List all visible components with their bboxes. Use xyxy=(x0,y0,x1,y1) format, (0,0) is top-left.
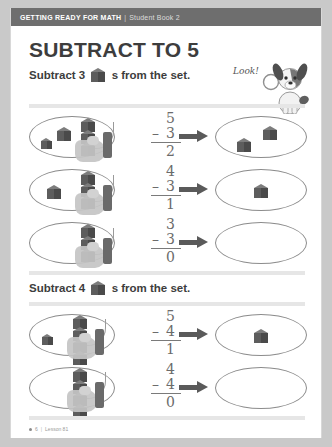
instruction-suffix: s from the set. xyxy=(112,282,191,294)
hand-removing-cubes-icon xyxy=(73,116,119,166)
cube-icon xyxy=(254,329,268,343)
answer-value: 0 xyxy=(137,395,181,410)
subtraction-equation: 5 – 4 1 xyxy=(137,309,181,357)
arrow-icon xyxy=(179,130,209,142)
header-subtitle: Student Book 2 xyxy=(129,14,180,21)
subtrahend: 3 xyxy=(166,179,175,194)
page-footer: 6 | Lesson 81 xyxy=(29,426,68,432)
hand-removing-cubes-icon xyxy=(65,313,111,363)
page-title: SUBTRACT TO 5 xyxy=(29,38,199,62)
cube-icon xyxy=(237,138,251,152)
cube-icon xyxy=(91,281,105,295)
hand-removing-cubes-icon xyxy=(73,169,119,219)
worksheet-page: GETTING READY FOR MATH | Student Book 2 … xyxy=(10,8,322,438)
footer-lesson-label: Lesson 81 xyxy=(45,426,68,432)
subtraction-equation: 4 – 4 0 xyxy=(137,362,181,410)
minuend: 3 xyxy=(137,217,181,232)
cube-icon xyxy=(254,184,268,198)
subtrahend: 4 xyxy=(166,324,175,339)
cube-icon xyxy=(263,126,277,140)
answer-value: 0 xyxy=(137,250,181,265)
subtrahend: 4 xyxy=(166,377,175,392)
answer-value: 2 xyxy=(137,144,181,159)
arrow-icon xyxy=(179,381,209,393)
subtraction-equation: 3 – 3 0 xyxy=(137,217,181,265)
section-divider xyxy=(29,416,305,420)
page-header: GETTING READY FOR MATH | Student Book 2 xyxy=(11,8,322,26)
look-label: Look! xyxy=(233,66,259,76)
minus-operator: – xyxy=(152,232,159,247)
minus-operator: – xyxy=(152,324,159,339)
section-divider xyxy=(29,302,305,306)
problem-row: 3 – 3 0 xyxy=(29,216,309,268)
minuend: 4 xyxy=(137,362,181,377)
problem-row: 4 – 4 0 xyxy=(29,361,309,413)
cube-icon xyxy=(42,334,53,345)
answer-oval-right xyxy=(215,222,307,264)
instruction-prefix: Subtract xyxy=(29,282,76,294)
subtrahend: 3 xyxy=(166,232,175,247)
problem-row: 5 – 4 1 xyxy=(29,308,309,360)
section-divider xyxy=(29,271,305,275)
problem-row: 4 – 3 1 xyxy=(29,163,309,215)
arrow-icon xyxy=(179,236,209,248)
answer-value: 1 xyxy=(137,197,181,212)
subtraction-equation: 4 – 3 1 xyxy=(137,164,181,212)
cube-icon xyxy=(47,185,61,199)
footer-page-number: 6 xyxy=(35,426,38,432)
instruction-prefix: Subtract xyxy=(29,69,76,81)
header-separator: | xyxy=(124,14,126,21)
minuend: 5 xyxy=(137,309,181,324)
cube-icon xyxy=(57,127,71,141)
cube-icon xyxy=(41,138,52,149)
section-divider xyxy=(29,104,305,108)
problem-row: 5 – 3 2 xyxy=(29,110,309,162)
instruction-number: 3 xyxy=(79,69,85,81)
cube-icon xyxy=(91,68,105,82)
minus-operator: – xyxy=(152,179,159,194)
page-content: SUBTRACT TO 5 Look! xyxy=(11,26,322,438)
minus-operator: – xyxy=(152,126,159,141)
minuend: 5 xyxy=(137,111,181,126)
instruction-number: 4 xyxy=(79,282,85,294)
arrow-icon xyxy=(179,183,209,195)
footer-bullet-icon xyxy=(29,428,32,431)
subtrahend: 3 xyxy=(166,126,175,141)
answer-value: 1 xyxy=(137,342,181,357)
footer-separator: | xyxy=(41,426,42,432)
subtraction-equation: 5 – 3 2 xyxy=(137,111,181,159)
minus-operator: – xyxy=(152,377,159,392)
header-title: GETTING READY FOR MATH xyxy=(20,14,121,21)
hand-removing-cubes-icon xyxy=(65,366,111,416)
hand-removing-cubes-icon xyxy=(73,222,119,272)
instruction-section-1: Subtract 3 s from the set. xyxy=(29,68,190,82)
answer-oval-right xyxy=(215,367,307,409)
answer-oval-right xyxy=(215,116,307,158)
minuend: 4 xyxy=(137,164,181,179)
instruction-section-2: Subtract 4 s from the set. xyxy=(29,281,190,295)
instruction-suffix: s from the set. xyxy=(112,69,191,81)
arrow-icon xyxy=(179,328,209,340)
